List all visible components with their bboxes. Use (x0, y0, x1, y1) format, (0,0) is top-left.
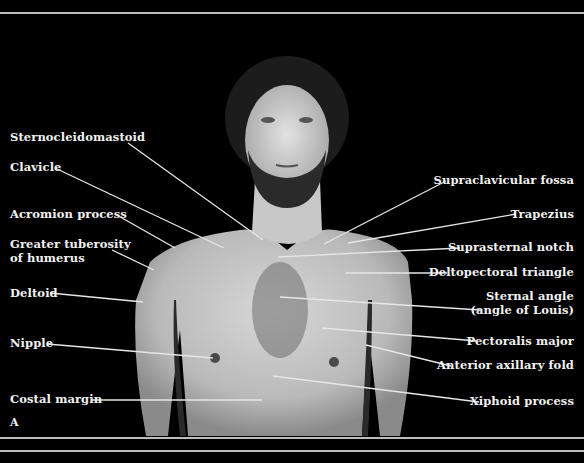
label-angle-of-louis: (angle of Louis) (470, 304, 574, 317)
label-suprasternal-notch: Suprasternal notch (448, 241, 574, 254)
label-acromion-process: Acromion process (10, 208, 127, 221)
label-nipple: Nipple (10, 337, 53, 350)
label-deltoid: Deltoid (10, 287, 58, 300)
label-costal-margin: Costal margin (10, 393, 102, 406)
label-pectoralis-major: Pectoralis major (467, 335, 574, 348)
nipple-right (329, 357, 339, 367)
label-clavicle: Clavicle (10, 161, 62, 174)
panel-letter: A (10, 416, 19, 429)
label-xiphoid-process: Xiphoid process (470, 395, 574, 408)
label-supraclavicular-fossa: Supraclavicular fossa (434, 174, 574, 187)
anatomy-figure: Sternocleidomastoid Clavicle Acromion pr… (0, 0, 584, 463)
label-of-humerus: of humerus (10, 252, 85, 265)
label-greater-tuberosity: Greater tuberosity (10, 238, 131, 251)
label-trapezius: Trapezius (511, 208, 574, 221)
chest-hair (252, 262, 308, 358)
label-anterior-axillary-fold: Anterior axillary fold (437, 359, 574, 372)
label-sternal-angle: Sternal angle (486, 290, 574, 303)
label-deltopectoral-triangle: Deltopectoral triangle (429, 266, 574, 279)
label-sternocleidomastoid: Sternocleidomastoid (10, 131, 145, 144)
